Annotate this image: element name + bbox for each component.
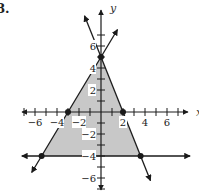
point-marker: [39, 153, 45, 159]
y-tick-label: 6: [90, 41, 96, 52]
x-tick-label: 2: [120, 117, 126, 128]
point-marker: [138, 153, 144, 159]
x-tick-label: −4: [50, 117, 65, 128]
y-axis-label: y: [109, 2, 117, 15]
x-axis-label: x: [196, 106, 199, 119]
x-tick-label: 6: [164, 117, 170, 128]
y-tick-label: −4: [81, 151, 96, 162]
point-marker: [98, 54, 104, 60]
y-tick-label: −2: [81, 129, 96, 140]
x-tick-label: 4: [142, 117, 148, 128]
y-tick-label: −6: [81, 173, 96, 184]
y-tick-label: 2: [90, 85, 96, 96]
point-marker: [65, 109, 71, 115]
x-tick-label: −6: [28, 117, 43, 128]
x-tick-label: −2: [72, 117, 87, 128]
y-tick-label: 4: [90, 63, 96, 74]
point-marker: [120, 109, 126, 115]
graph: xy −6−4−2246−6−4−2246: [0, 0, 199, 192]
